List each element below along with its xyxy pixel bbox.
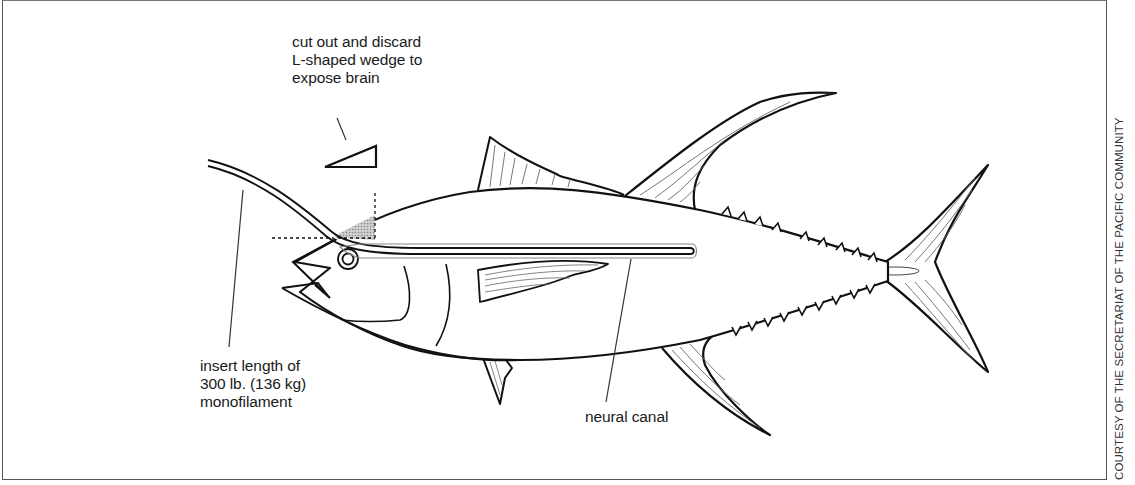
fish-body xyxy=(295,188,888,360)
image-credit: COURTESY OF THE SECRETARIAT OF THE PACIF… xyxy=(1113,0,1125,480)
tuna-diagram xyxy=(0,0,1135,485)
wedge-label-line-1: cut out and discard xyxy=(292,33,422,51)
monofilament-label: insert length of 300 lb. (136 kg) monofi… xyxy=(200,357,306,411)
wedge-label-line-3: expose brain xyxy=(292,69,422,87)
wedge-label-line-2: L-shaped wedge to xyxy=(292,51,422,69)
eye xyxy=(338,249,358,269)
pelvic-fin xyxy=(483,358,512,404)
removed-wedge-icon xyxy=(325,146,376,167)
anal-fin xyxy=(662,330,770,435)
first-dorsal-fin xyxy=(478,137,624,195)
mono-label-line-1: insert length of xyxy=(200,357,306,375)
neural-canal-label: neural canal xyxy=(585,408,668,426)
mono-label-line-2: 300 lb. (136 kg) xyxy=(200,375,306,393)
wedge-instruction-label: cut out and discard L-shaped wedge to ex… xyxy=(292,33,422,87)
mono-label-line-3: monofilament xyxy=(200,393,306,411)
